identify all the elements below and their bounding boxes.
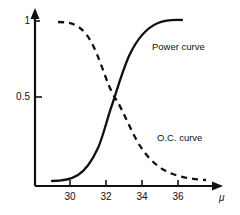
x-axis	[35, 180, 223, 191]
x-tick-label-34: 34	[136, 192, 147, 202]
annotation-power-curve: Power curve	[152, 42, 205, 52]
y-axis	[31, 8, 43, 186]
chart-plot-area	[0, 0, 240, 215]
x-tick-label-30: 30	[64, 192, 75, 202]
x-axis-label: μ	[219, 193, 224, 203]
x-axis-arrow-icon	[212, 182, 223, 191]
annotation-oc-curve: O.C. curve	[157, 133, 202, 143]
y-tick-label-0-5: 0.5	[2, 92, 30, 102]
y-axis-arrow-icon	[31, 8, 40, 19]
x-tick-label-36: 36	[172, 192, 183, 202]
x-tick-label-32: 32	[100, 192, 111, 202]
y-tick-label-1: 1	[2, 16, 30, 26]
chart-container: 1 0.5 30 32 34 36 μ Power curve O.C. cur…	[0, 0, 240, 215]
